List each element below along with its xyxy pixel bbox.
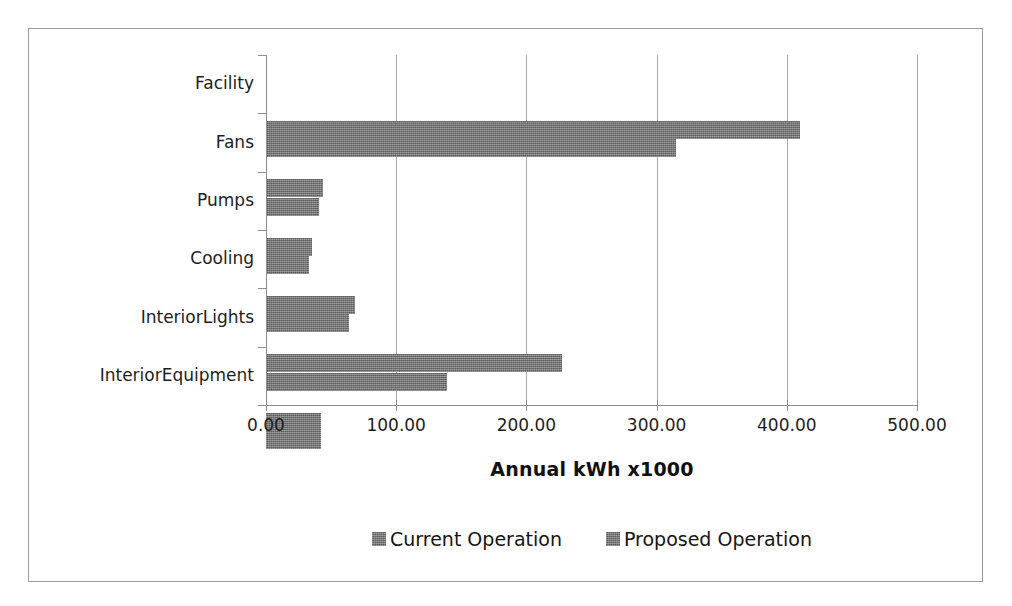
chart-legend: Current Operation Proposed Operation bbox=[266, 528, 918, 550]
value-axis-tick bbox=[917, 400, 918, 411]
legend-swatch-icon bbox=[372, 532, 386, 546]
bar-0[interactable] bbox=[266, 238, 312, 256]
legend-entry-current[interactable]: Current Operation bbox=[372, 528, 562, 550]
value-axis-tick-label: 100.00 bbox=[366, 417, 425, 434]
bar-0[interactable] bbox=[266, 121, 800, 139]
gridline bbox=[526, 55, 527, 405]
bar-0[interactable] bbox=[266, 179, 323, 197]
category-axis-tick bbox=[258, 230, 267, 231]
category-axis-tick bbox=[258, 55, 267, 56]
value-axis-tick bbox=[787, 400, 788, 411]
category-axis-labels: FacilityFansPumpsCoolingInteriorLightsIn… bbox=[0, 0, 254, 606]
category-axis-tick bbox=[258, 113, 267, 114]
bar-1[interactable] bbox=[266, 373, 447, 391]
plot-area bbox=[266, 55, 917, 405]
value-axis-tick-label: 200.00 bbox=[497, 417, 556, 434]
value-axis-tick-label: 0.00 bbox=[247, 417, 285, 434]
category-axis-tick bbox=[258, 347, 267, 348]
value-axis-tick-label: 400.00 bbox=[757, 417, 816, 434]
bar-1[interactable] bbox=[266, 139, 676, 157]
legend-label: Proposed Operation bbox=[624, 528, 812, 550]
category-axis-label: Fans bbox=[216, 134, 254, 151]
gridline bbox=[396, 55, 397, 405]
value-axis-tick-label: 500.00 bbox=[887, 417, 946, 434]
category-axis-tick bbox=[258, 288, 267, 289]
value-axis-tick bbox=[526, 400, 527, 411]
value-axis-title: Annual kWh x1000 bbox=[266, 458, 918, 480]
category-axis-label: Facility bbox=[195, 75, 254, 92]
category-axis-tick bbox=[258, 172, 267, 173]
bar-1[interactable] bbox=[266, 314, 349, 332]
category-axis-label: InteriorLights bbox=[141, 309, 254, 326]
category-axis-label: InteriorEquipment bbox=[100, 367, 254, 384]
value-axis-line bbox=[266, 405, 918, 406]
bar-1[interactable] bbox=[266, 256, 309, 274]
gridline bbox=[657, 55, 658, 405]
value-axis-tick-label: 300.00 bbox=[627, 417, 686, 434]
bar-0[interactable] bbox=[266, 354, 562, 372]
category-axis-tick bbox=[258, 405, 267, 406]
value-axis-tick bbox=[396, 400, 397, 411]
value-axis-tick bbox=[657, 400, 658, 411]
legend-entry-proposed[interactable]: Proposed Operation bbox=[606, 528, 812, 550]
gridline bbox=[787, 55, 788, 405]
legend-label: Current Operation bbox=[390, 528, 562, 550]
legend-swatch-icon bbox=[606, 532, 620, 546]
gridline bbox=[917, 55, 918, 405]
bar-1[interactable] bbox=[266, 198, 319, 216]
bar-0[interactable] bbox=[266, 296, 355, 314]
category-axis-label: Cooling bbox=[190, 250, 254, 267]
category-axis-label: Pumps bbox=[197, 192, 254, 209]
